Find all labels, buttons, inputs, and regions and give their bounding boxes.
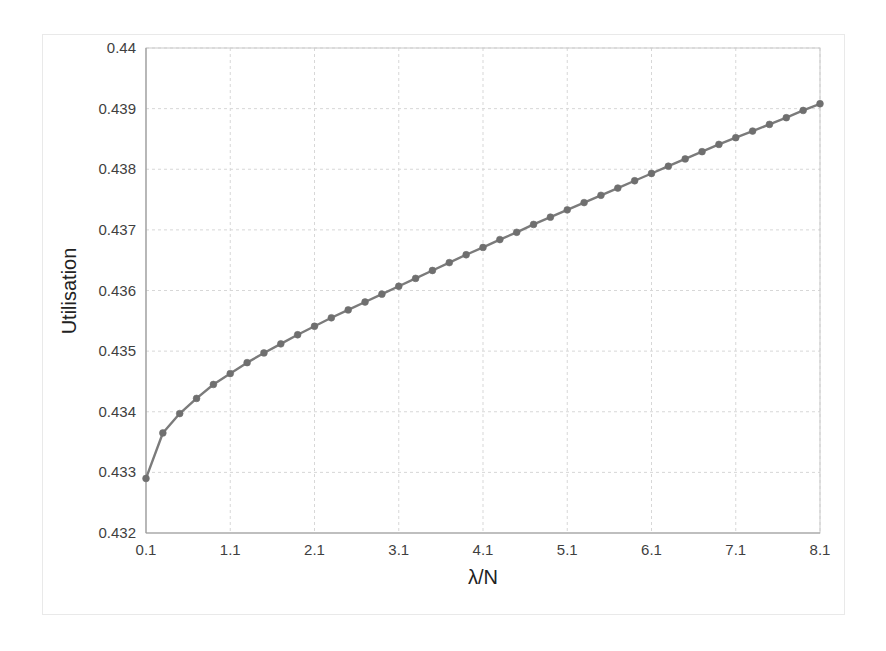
data-point-marker	[379, 291, 386, 298]
data-point-marker	[345, 307, 352, 314]
x-tick-label: 6.1	[641, 541, 662, 558]
data-point-marker	[328, 314, 335, 321]
data-point-marker	[176, 410, 183, 417]
x-tick-labels: 0.11.12.13.14.15.16.17.18.1	[136, 541, 831, 558]
y-tick-label: 0.437	[98, 221, 136, 238]
data-point-marker	[480, 244, 487, 251]
y-tick-label: 0.434	[98, 403, 136, 420]
data-point-marker	[429, 267, 436, 274]
data-point-marker	[496, 236, 503, 243]
data-point-marker	[817, 100, 824, 107]
data-point-marker	[277, 340, 284, 347]
data-point-marker	[227, 370, 234, 377]
y-tick-label: 0.439	[98, 100, 136, 117]
data-point-marker	[193, 395, 200, 402]
data-point-marker	[716, 141, 723, 148]
data-point-marker	[143, 475, 150, 482]
data-point-marker	[530, 221, 537, 228]
x-tick-label: 8.1	[810, 541, 831, 558]
x-tick-label: 3.1	[388, 541, 409, 558]
data-point-marker	[311, 323, 318, 330]
utilisation-line-chart: 0.4320.4330.4340.4350.4360.4370.4380.439…	[0, 0, 886, 651]
y-tick-label: 0.432	[98, 524, 136, 541]
data-point-marker	[614, 185, 621, 192]
data-point-marker	[581, 199, 588, 206]
x-tick-label: 1.1	[220, 541, 241, 558]
data-point-marker	[699, 148, 706, 155]
data-point-marker	[598, 192, 605, 199]
data-point-marker	[732, 134, 739, 141]
x-tick-label: 0.1	[136, 541, 157, 558]
data-point-marker	[294, 331, 301, 338]
x-tick-label: 5.1	[557, 541, 578, 558]
data-point-marker	[749, 128, 756, 135]
data-point-marker	[463, 251, 470, 258]
data-point-marker	[261, 350, 268, 357]
y-tick-label: 0.433	[98, 463, 136, 480]
data-point-marker	[159, 430, 166, 437]
data-point-marker	[513, 229, 520, 236]
grid-lines	[146, 48, 820, 533]
data-point-marker	[682, 156, 689, 163]
x-tick-label: 2.1	[304, 541, 325, 558]
chart-figure: 0.4320.4330.4340.4350.4360.4370.4380.439…	[0, 0, 886, 651]
y-tick-labels: 0.4320.4330.4340.4350.4360.4370.4380.439…	[98, 39, 136, 541]
data-point-marker	[395, 283, 402, 290]
x-tick-label: 7.1	[725, 541, 746, 558]
data-point-marker	[210, 381, 217, 388]
data-point-marker	[665, 163, 672, 170]
data-point-marker	[631, 177, 638, 184]
y-tick-label: 0.435	[98, 342, 136, 359]
data-point-marker	[362, 299, 369, 306]
y-tick-label: 0.436	[98, 282, 136, 299]
data-point-marker	[766, 121, 773, 128]
data-point-marker	[800, 107, 807, 114]
y-tick-label: 0.44	[107, 39, 136, 56]
data-point-marker	[547, 214, 554, 221]
y-tick-label: 0.438	[98, 160, 136, 177]
data-point-marker	[446, 259, 453, 266]
data-point-marker	[244, 359, 251, 366]
y-axis-title: Utilisation	[58, 248, 80, 335]
data-point-marker	[648, 170, 655, 177]
data-point-marker	[412, 275, 419, 282]
data-point-marker	[564, 206, 571, 213]
x-tick-label: 4.1	[473, 541, 494, 558]
x-axis-title: λ/N	[468, 566, 498, 588]
data-point-marker	[783, 114, 790, 121]
